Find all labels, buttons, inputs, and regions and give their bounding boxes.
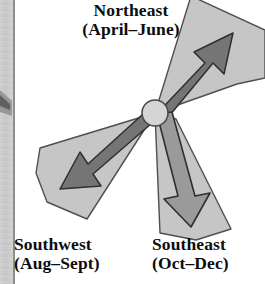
seasonal-wind-direction-figure: Northeast (April–June) Southwest (Aug–Se… — [0, 0, 265, 284]
label-southwest-name: Southwest — [14, 235, 142, 254]
label-southeast: Southeast (Oct–Dec) — [152, 235, 265, 273]
label-northeast-season: (April–June) — [63, 20, 199, 39]
center-hub — [142, 100, 168, 126]
adjacent-figure-sliver — [0, 90, 12, 116]
label-southeast-season: (Oct–Dec) — [152, 254, 265, 273]
label-southwest-season: (Aug–Sept) — [14, 254, 142, 273]
label-northeast: Northeast (April–June) — [63, 1, 199, 39]
label-southwest: Southwest (Aug–Sept) — [14, 235, 142, 273]
label-northeast-name: Northeast — [63, 1, 199, 20]
direction-group-southwest — [36, 105, 159, 219]
direction-group-southeast — [155, 112, 231, 240]
label-southeast-name: Southeast — [152, 235, 265, 254]
